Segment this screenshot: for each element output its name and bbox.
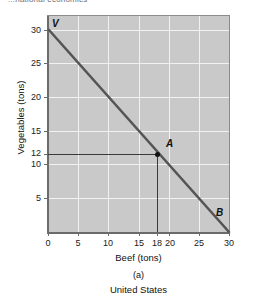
point-label-v: V bbox=[52, 18, 59, 29]
x-tick-18 bbox=[157, 232, 158, 236]
y-tick-15 bbox=[44, 131, 48, 132]
y-tick-label-5: 5 bbox=[21, 193, 41, 203]
x-tick-label-25: 25 bbox=[189, 238, 209, 248]
y-tick-12 bbox=[44, 154, 48, 155]
gridline-vertical-10 bbox=[108, 16, 109, 232]
guide-line-horizontal-12 bbox=[48, 154, 158, 155]
plot-area bbox=[48, 16, 229, 232]
y-tick-5 bbox=[44, 198, 48, 199]
gridline-horizontal-20 bbox=[48, 97, 229, 98]
y-tick-20 bbox=[44, 97, 48, 98]
x-axis-title: Beef (tons) bbox=[48, 252, 229, 263]
gridline-horizontal-30 bbox=[48, 30, 229, 31]
x-tick-label-5: 5 bbox=[68, 238, 88, 248]
figure-panel-label: (a) bbox=[48, 270, 229, 280]
figure-caption: United States bbox=[48, 284, 229, 295]
x-tick-label-0: 0 bbox=[38, 238, 58, 248]
gridline-vertical-20 bbox=[169, 16, 170, 232]
gridline-vertical-5 bbox=[78, 16, 79, 232]
x-tick-label-20: 20 bbox=[160, 238, 180, 248]
plot-border-right bbox=[229, 16, 230, 234]
x-tick-10 bbox=[108, 232, 109, 236]
x-tick-30 bbox=[229, 232, 230, 236]
x-tick-15 bbox=[139, 232, 140, 236]
plot-border-top bbox=[47, 15, 230, 16]
x-tick-5 bbox=[78, 232, 79, 236]
x-tick-label-15: 15 bbox=[129, 238, 149, 248]
gridline-vertical-25 bbox=[199, 16, 200, 232]
x-tick-20 bbox=[169, 232, 170, 236]
y-tick-10 bbox=[44, 164, 48, 165]
y-tick-30 bbox=[44, 30, 48, 31]
point-a-marker bbox=[155, 152, 160, 157]
gridline-horizontal-25 bbox=[48, 63, 229, 64]
x-tick-label-10: 10 bbox=[98, 238, 118, 248]
y-tick-label-30: 30 bbox=[21, 25, 41, 35]
ppf-chart-figure: V A B 0 5 10 15 18 20 25 30 5 10 12 15 2… bbox=[0, 0, 255, 302]
point-label-b: B bbox=[216, 207, 223, 218]
guide-line-vertical-18 bbox=[157, 154, 158, 232]
gridline-vertical-15 bbox=[139, 16, 140, 232]
y-axis-title: Vegetables (tons) bbox=[15, 43, 26, 193]
gridline-horizontal-5 bbox=[48, 198, 229, 199]
y-axis-line bbox=[47, 16, 49, 234]
x-tick-label-30: 30 bbox=[219, 238, 239, 248]
x-tick-0 bbox=[48, 232, 49, 236]
gridline-horizontal-15 bbox=[48, 131, 229, 132]
y-tick-25 bbox=[44, 63, 48, 64]
point-label-a: A bbox=[166, 138, 173, 149]
gridline-horizontal-10 bbox=[48, 164, 229, 165]
x-tick-25 bbox=[199, 232, 200, 236]
